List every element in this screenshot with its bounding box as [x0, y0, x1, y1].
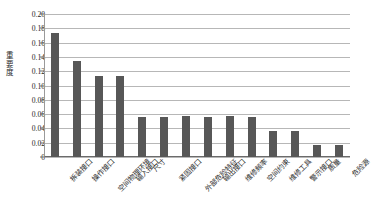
x-axis-tick-label: 操作接口 [91, 159, 116, 184]
x-axis-tick-labels: 拆装接口操作接口空间物理环境输入接口尺寸紧固接口外部危险特征输出接口维修频率空间… [44, 159, 350, 218]
x-axis-tick-label: 维修频率 [244, 159, 269, 184]
bar[interactable] [116, 76, 124, 158]
bar[interactable] [291, 131, 299, 157]
bar-slot [110, 14, 132, 157]
bar[interactable] [313, 145, 321, 157]
bar-slot [197, 14, 219, 157]
bar-slot [131, 14, 153, 157]
bar-slot [44, 14, 66, 157]
bar[interactable] [226, 116, 234, 157]
x-axis-tick-label: 紧固接口 [178, 159, 203, 184]
bar-slot [175, 14, 197, 157]
bar[interactable] [269, 131, 277, 157]
bar[interactable] [51, 33, 59, 157]
bar[interactable] [248, 117, 256, 157]
bar-slot [263, 14, 285, 157]
bar-slot [219, 14, 241, 157]
bar[interactable] [95, 76, 103, 157]
bar-series [44, 14, 350, 157]
x-axis-tick-label: 拆装接口 [69, 159, 94, 184]
bar-slot [153, 14, 175, 157]
bar-slot [284, 14, 306, 157]
bar-slot [328, 14, 350, 157]
bar-slot [306, 14, 328, 157]
bar[interactable] [73, 61, 81, 157]
x-axis-tick-label: 维修工具 [288, 159, 313, 184]
bar-slot [241, 14, 263, 157]
bar[interactable] [182, 116, 190, 157]
bar-slot [66, 14, 88, 157]
bar[interactable] [204, 117, 212, 157]
bar[interactable] [335, 145, 343, 157]
bar[interactable] [160, 117, 168, 157]
x-axis-tick-label: 空间约束 [266, 159, 291, 184]
bar[interactable] [138, 117, 146, 157]
bar-slot [88, 14, 110, 157]
x-axis-tick-label: 危险源 [351, 159, 371, 179]
